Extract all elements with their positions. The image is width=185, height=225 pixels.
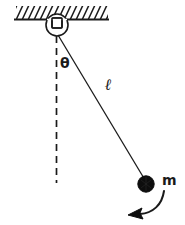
length-label-l: ℓ: [105, 77, 112, 93]
mass-label-m: m: [162, 173, 177, 187]
pendulum-diagram: θ ℓ m: [0, 0, 185, 225]
angle-label-theta: θ: [60, 56, 70, 70]
swing-direction-arrow: [140, 191, 164, 214]
arrow-head-icon: [128, 208, 143, 219]
pendulum-rod: [58, 35, 145, 180]
pendulum-svg: [0, 0, 185, 225]
